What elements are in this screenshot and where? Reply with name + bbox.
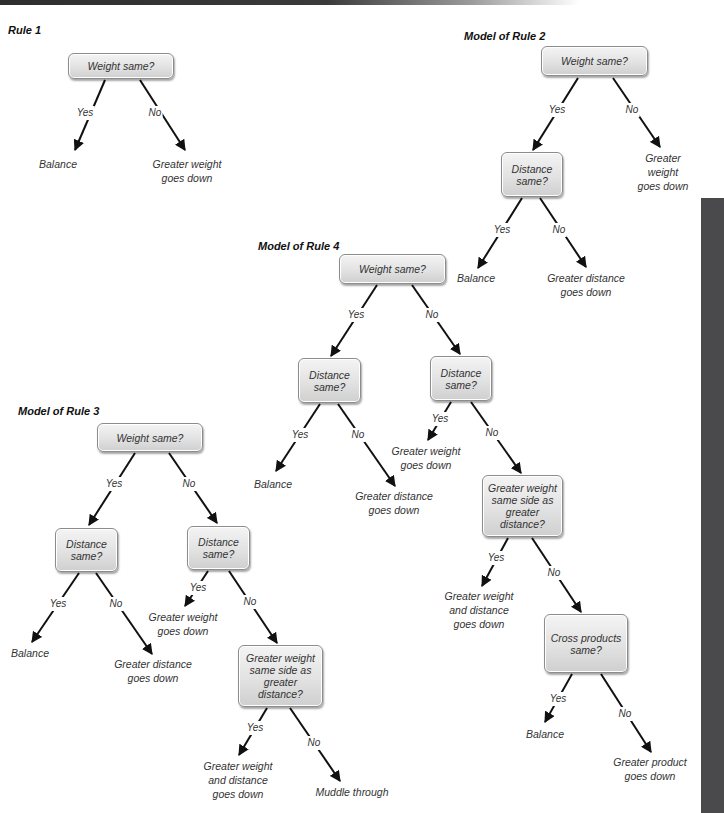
- rule4-greater-weight-distance-leaf: Greater weight and distance goes down: [445, 589, 514, 631]
- rule1-yes-label: Yes: [76, 106, 95, 120]
- rule4-same-side-yes-label: Yes: [487, 551, 506, 565]
- rule1-weight-same-node: Weight same?: [68, 53, 174, 79]
- rule4-same-side-no-label: No: [547, 566, 562, 580]
- rule1-title: Rule 1: [8, 24, 41, 36]
- rule2-greater-weight-leaf: Greater weight goes down: [633, 151, 694, 193]
- rule2-distance-same-node: Distance same?: [501, 152, 563, 197]
- rule3-root-yes-label: Yes: [105, 477, 124, 491]
- rule4-weight-same-node: Weight same?: [339, 254, 446, 284]
- rule4-cross-products-node: Cross products same?: [544, 614, 628, 673]
- rule3-same-side-yes-label: Yes: [246, 721, 265, 735]
- rule3-balance-leaf: Balance: [11, 646, 49, 660]
- edges-layer: [0, 0, 724, 813]
- rule2-root-yes-label: Yes: [548, 103, 567, 117]
- rule2-distance-no-label: No: [552, 223, 567, 237]
- rule4-root-yes-label: Yes: [347, 308, 366, 322]
- rule4-distance-right-yes-label: Yes: [431, 412, 450, 426]
- rule3-root-no-label: No: [182, 477, 197, 491]
- rule1-balance-leaf: Balance: [39, 157, 77, 171]
- rule1-no-label: No: [148, 106, 163, 120]
- rule4-cross-yes-label: Yes: [549, 692, 568, 706]
- rule3-greater-weight-distance-leaf: Greater weight and distance goes down: [204, 759, 273, 801]
- rule3-greater-weight-leaf: Greater weight goes down: [149, 610, 218, 638]
- rule4-distance-left-node: Distance same?: [298, 358, 361, 403]
- rule4-distance-right-no-label: No: [485, 426, 500, 440]
- rule3-same-side-node: Greater weight same side as greater dist…: [238, 645, 323, 707]
- rule3-title: Model of Rule 3: [18, 405, 99, 417]
- rule3-distance-right-no-label: No: [243, 595, 258, 609]
- rule3-distance-left-no-label: No: [109, 597, 124, 611]
- rule2-greater-distance-leaf: Greater distance goes down: [547, 271, 625, 299]
- rule2-balance-leaf: Balance: [457, 271, 495, 285]
- rule4-distance-left-no-label: No: [351, 428, 366, 442]
- rule4-greater-distance-leaf: Greater distance goes down: [355, 489, 433, 517]
- rule2-title: Model of Rule 2: [464, 30, 545, 42]
- rule4-distance-left-yes-label: Yes: [291, 428, 310, 442]
- rule3-distance-left-node: Distance same?: [55, 528, 118, 572]
- rule3-greater-distance-leaf: Greater distance goes down: [114, 657, 192, 685]
- rule3-weight-same-node: Weight same?: [97, 423, 203, 452]
- rule4-balance-leaf-left: Balance: [254, 477, 292, 491]
- rule1-greater-weight-leaf: Greater weight goes down: [153, 157, 222, 185]
- rule3-same-side-no-label: No: [307, 736, 322, 750]
- rule4-title: Model of Rule 4: [258, 240, 339, 252]
- rule3-distance-right-yes-label: Yes: [189, 581, 208, 595]
- rule4-cross-no-label: No: [618, 707, 633, 721]
- rule2-distance-yes-label: Yes: [493, 223, 512, 237]
- rule3-muddle-through-leaf: Muddle through: [316, 785, 389, 799]
- rule4-same-side-node: Greater weight same side as greater dist…: [482, 475, 563, 537]
- rule3-distance-right-node: Distance same?: [187, 526, 250, 570]
- rule4-greater-product-leaf: Greater product goes down: [613, 755, 687, 783]
- rule4-root-no-label: No: [425, 308, 440, 322]
- rule4-balance-leaf-cross: Balance: [526, 727, 564, 741]
- rule4-greater-weight-leaf: Greater weight goes down: [392, 444, 461, 472]
- rule3-distance-left-no-edge: [96, 573, 152, 654]
- rule3-distance-left-yes-label: Yes: [49, 597, 68, 611]
- rule2-weight-same-node: Weight same?: [541, 46, 648, 76]
- rule4-distance-left-no-edge: [338, 404, 395, 486]
- rule4-distance-right-node: Distance same?: [430, 356, 492, 401]
- rule2-root-no-label: No: [625, 103, 640, 117]
